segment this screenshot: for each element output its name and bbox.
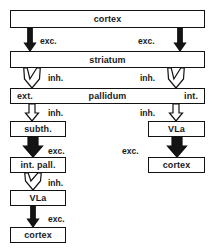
edge-intpall-to-vla-inhibitory-arrow [25, 173, 42, 190]
node-cortex_right-label: cortex [163, 160, 191, 170]
edge-label-striatum-to-pallidum-ext: inh. [48, 73, 63, 83]
edge-label-striatum-to-pallidum-int: inh. [140, 73, 155, 83]
node-vla_left-label: VLa [30, 193, 47, 203]
node-pallidum-int-label: int. [184, 91, 198, 101]
edge-label-cortex-to-striatum-left: exc. [40, 36, 57, 46]
node-pallidum-ext-label: ext. [17, 91, 33, 101]
node-cortex_top: cortex [10, 10, 205, 28]
node-vla_right: VLa [148, 121, 205, 137]
node-vla_left: VLa [10, 190, 66, 206]
edge-subth-to-intpall-excitatory-arrow [24, 137, 43, 157]
edge-cortex-to-striatum-left-excitatory-arrow [25, 28, 36, 51]
node-striatum-label: striatum [89, 55, 125, 65]
node-striatum: striatum [10, 51, 205, 68]
edge-label-vla-left-to-cortex: exc. [48, 214, 65, 224]
edge-vla-left-to-cortex-excitatory-arrow [28, 206, 39, 227]
node-cortex_left: cortex [10, 227, 66, 243]
edge-striatum-to-pallidum-ext-inhibitory-arrow [24, 68, 41, 88]
node-cortex_right: cortex [148, 157, 205, 173]
node-subth: subth. [10, 121, 66, 137]
edge-label-cortex-to-striatum-right: exc. [138, 36, 155, 46]
node-pallidum-label: pallidum [11, 91, 204, 101]
basal-ganglia-diagram: cortexstriatumext.pallidumint.subth.int.… [0, 0, 215, 251]
edge-label-vla-right-to-cortex: exc. [122, 146, 139, 156]
node-int_pall-label: int. pall. [20, 160, 55, 170]
edge-label-intpall-to-vla: inh. [48, 178, 63, 188]
edge-vla-right-to-cortex-excitatory-arrow [168, 137, 187, 157]
node-subth-label: subth. [24, 124, 52, 134]
node-pallidum: ext.pallidumint. [10, 88, 205, 104]
edge-label-subth-to-intpall: exc. [48, 146, 65, 156]
edge-label-int-to-vla: inh. [140, 108, 155, 118]
node-vla_right-label: VLa [168, 124, 185, 134]
node-int_pall: int. pall. [10, 157, 66, 173]
node-cortex_left-label: cortex [24, 230, 52, 240]
edge-cortex-to-striatum-right-excitatory-arrow [175, 28, 186, 51]
node-cortex_top-label: cortex [94, 14, 122, 24]
edge-label-ext-to-subth: inh. [48, 108, 63, 118]
edge-striatum-to-pallidum-int-inhibitory-arrow [168, 68, 185, 88]
edge-int-to-vla-inhibitory-arrow [170, 104, 183, 121]
edge-ext-to-subth-inhibitory-arrow [26, 104, 39, 121]
